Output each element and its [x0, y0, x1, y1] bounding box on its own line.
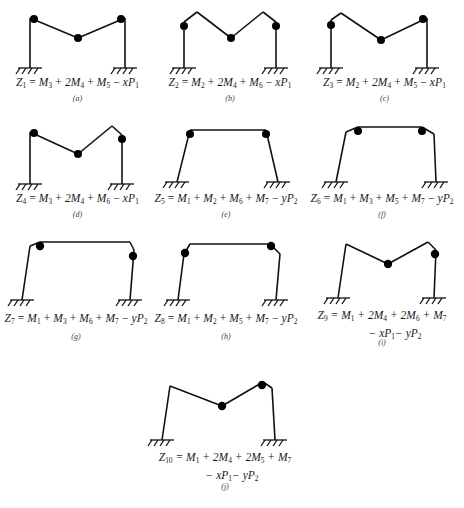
- fixed-support-h-left: [164, 300, 190, 306]
- fixed-support-i-right: [420, 298, 446, 304]
- mechanism-diagram-g: [0, 228, 152, 320]
- mechanism-diagram-f: [300, 112, 464, 200]
- fixed-support-c-right: [413, 68, 439, 74]
- mechanism-diagram-c: [305, 0, 464, 85]
- plastic-hinges-a: [30, 15, 125, 42]
- equation-f: Z6 = M1 + M3 + M5 + M7 − yP2: [300, 192, 464, 208]
- fixed-support-b-right: [262, 68, 288, 74]
- equation-h: Z8 = M1 + M2 + M5 + M7 − yP2: [152, 312, 300, 328]
- fixed-support-d-right: [108, 184, 134, 190]
- equation-a: Z1 = M3 + 2M4 + M5 − xP1: [0, 76, 155, 92]
- fixed-support-f-right: [422, 182, 448, 188]
- fixed-support-b-left: [170, 68, 196, 74]
- panel-sublabel-e: (e): [152, 210, 300, 219]
- plastic-hinges-e: [186, 130, 270, 138]
- panel-d: Z4 = M3 + 2M4 + M6 − xP1 (d): [0, 112, 155, 224]
- plastic-hinges-d: [30, 129, 126, 158]
- panel-c: Z3 = M2 + 2M4 + M5 − xP1 (c): [305, 0, 464, 110]
- fixed-support-g-right: [116, 300, 142, 306]
- fixed-support-h-right: [262, 300, 288, 306]
- fixed-support-g-left: [8, 300, 34, 306]
- plastic-hinges-i: [384, 250, 439, 268]
- fixed-support-j-right: [261, 440, 287, 446]
- figure-sheet: Z1 = M3 + 2M4 + M5 − xP1 (a): [0, 0, 464, 508]
- mechanism-diagram-a: [0, 0, 155, 85]
- fixed-support-a-left: [16, 68, 42, 74]
- mechanism-diagram-i: [300, 228, 464, 316]
- panel-j: Z10 = M1 + 2M4 + 2M5 + M7 − xP1− yP2 (j): [130, 372, 340, 508]
- panel-sublabel-g: (g): [0, 332, 152, 341]
- panel-sublabel-b: (b): [155, 94, 305, 103]
- panel-i: Z9 = M1 + 2M4 + 2M6 + M7 − xP1− yP2 (i): [300, 228, 464, 354]
- panel-h: Z8 = M1 + M2 + M5 + M7 − yP2 (h): [152, 228, 300, 348]
- panel-a: Z1 = M3 + 2M4 + M5 − xP1 (a): [0, 0, 155, 110]
- plastic-hinges-b: [180, 22, 280, 42]
- mechanism-diagram-b: [155, 0, 305, 85]
- mechanism-diagram-e: [152, 112, 300, 200]
- panel-b: Z2 = M2 + 2M4 + M6 − xP1 (b): [155, 0, 305, 110]
- fixed-support-e-left: [163, 182, 189, 188]
- fixed-support-d-left: [16, 184, 42, 190]
- fixed-support-e-right: [264, 182, 290, 188]
- fixed-support-a-right: [111, 68, 137, 74]
- panel-sublabel-a: (a): [0, 94, 155, 103]
- fixed-support-i-left: [324, 298, 350, 304]
- plastic-hinges-f: [354, 127, 426, 135]
- panel-f: Z6 = M1 + M3 + M5 + M7 − yP2 (f): [300, 112, 464, 224]
- equation-c: Z3 = M2 + 2M4 + M5 − xP1: [305, 76, 464, 92]
- mechanism-diagram-d: [0, 112, 155, 200]
- equation-g: Z7 = M1 + M3 + M6 + M7 − yP2: [0, 312, 152, 328]
- panel-g: Z7 = M1 + M3 + M6 + M7 − yP2 (g): [0, 228, 152, 348]
- equation-e: Z5 = M1 + M2 + M6 + M7 − yP2: [152, 192, 300, 208]
- plastic-hinges-c: [327, 15, 427, 44]
- panel-sublabel-d: (d): [0, 210, 155, 219]
- mechanism-diagram-h: [152, 228, 300, 320]
- mechanism-diagram-j: [130, 372, 340, 458]
- equation-b: Z2 = M2 + 2M4 + M6 − xP1: [155, 76, 305, 92]
- equation-d: Z4 = M3 + 2M4 + M6 − xP1: [0, 192, 155, 208]
- plastic-hinges-g: [36, 242, 137, 260]
- plastic-hinges-j: [218, 381, 266, 410]
- panel-sublabel-c: (c): [305, 94, 464, 103]
- panel-e: Z5 = M1 + M2 + M6 + M7 − yP2 (e): [152, 112, 300, 224]
- panel-sublabel-i: (i): [300, 338, 464, 347]
- panel-sublabel-h: (h): [152, 332, 300, 341]
- equation-j: Z10 = M1 + 2M4 + 2M5 + M7 − xP1− yP2: [130, 450, 320, 486]
- fixed-support-j-left: [148, 440, 174, 446]
- panel-sublabel-f: (f): [300, 210, 464, 219]
- panel-sublabel-j: (j): [130, 482, 320, 491]
- fixed-support-c-left: [317, 68, 343, 74]
- fixed-support-f-left: [322, 182, 348, 188]
